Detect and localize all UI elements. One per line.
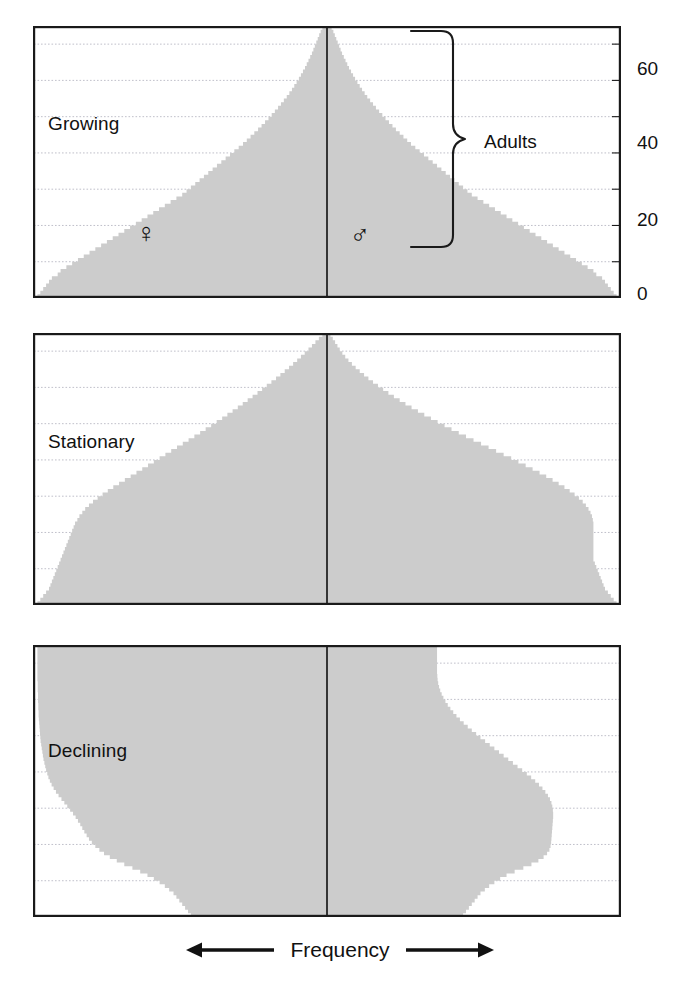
stationary-pyramid-plot xyxy=(33,333,621,605)
y-tick-20: 20 xyxy=(637,210,658,229)
declining-pyramid-plot xyxy=(33,645,621,917)
panel-title-stationary: Stationary xyxy=(48,431,135,453)
population-pyramid-figure: Growing ♀ ♂ Adults 60 40 20 0 Stationary… xyxy=(0,0,680,987)
left-arrow-icon xyxy=(184,939,276,961)
right-arrow-icon xyxy=(404,939,496,961)
y-axis-tick-labels: 60 40 20 0 xyxy=(0,0,680,320)
y-tick-40: 40 xyxy=(637,133,658,152)
panel-declining xyxy=(33,645,621,917)
panel-title-declining: Declining xyxy=(48,740,127,762)
panel-stationary xyxy=(33,333,621,605)
y-tick-0: 0 xyxy=(637,284,648,303)
y-tick-60: 60 xyxy=(637,59,658,78)
x-axis-caption: Frequency xyxy=(0,938,680,966)
frequency-label: Frequency xyxy=(290,938,389,962)
